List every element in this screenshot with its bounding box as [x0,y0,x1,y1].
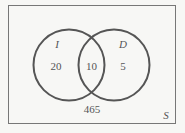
universe-label: S [163,109,169,121]
count-intersection: 10 [86,60,98,72]
venn-diagram: I D 20 10 5 465 S [0,0,185,133]
count-outside: 465 [84,103,101,115]
set-label-i: I [54,38,60,50]
count-d-only: 5 [120,60,126,72]
set-label-d: D [118,38,127,50]
count-i-only: 20 [51,60,63,72]
